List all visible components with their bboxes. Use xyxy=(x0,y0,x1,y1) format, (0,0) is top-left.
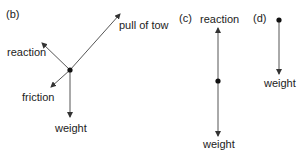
weight-label: weight xyxy=(263,77,296,89)
body-point xyxy=(67,67,72,72)
reaction-label: reaction xyxy=(7,46,46,58)
diagram-c: (c) reaction weight xyxy=(179,12,239,150)
diagram-d-label: (d) xyxy=(253,12,266,24)
pull-of-tow-arrow xyxy=(70,14,120,70)
diagram-d: (d) weight xyxy=(253,12,296,89)
diagram-c-label: (c) xyxy=(179,12,192,24)
free-body-diagrams: (b) pull of tow reaction friction weight… xyxy=(0,0,298,150)
reaction-label: reaction xyxy=(200,13,239,25)
weight-label: weight xyxy=(202,138,235,150)
body-point xyxy=(215,78,220,83)
diagram-b-label: (b) xyxy=(6,8,19,20)
friction-label: friction xyxy=(22,91,54,103)
body-point xyxy=(276,17,281,22)
reaction-arrow xyxy=(42,43,70,70)
friction-arrow xyxy=(51,70,70,87)
weight-label: weight xyxy=(54,122,87,134)
diagram-b: (b) pull of tow reaction friction weight xyxy=(6,8,169,134)
pull-of-tow-label: pull of tow xyxy=(119,19,169,31)
